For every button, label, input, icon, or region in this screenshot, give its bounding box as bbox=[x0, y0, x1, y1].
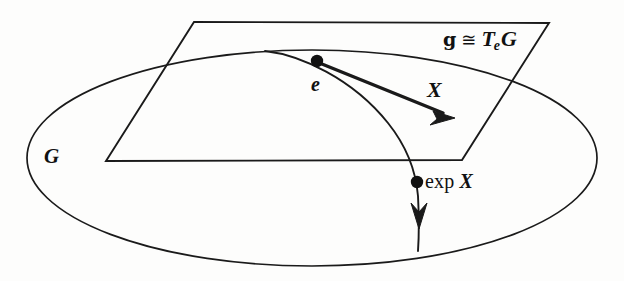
tangent-vector-label: X bbox=[427, 79, 442, 101]
identity-point-marker bbox=[311, 55, 323, 67]
tangent-space-subscript: e bbox=[494, 39, 500, 53]
exp-label-vector: X bbox=[459, 170, 472, 192]
group-label: G bbox=[44, 146, 59, 167]
tangent-vector-shaft bbox=[317, 62, 443, 113]
identity-label: e bbox=[311, 74, 320, 94]
congruence-symbol: ≅ bbox=[461, 31, 476, 49]
lie-group-diagram: G e X expX g ≅ T e G bbox=[0, 0, 624, 281]
exp-label-prefix: exp bbox=[425, 170, 454, 192]
tangent-space-G: G bbox=[501, 28, 517, 50]
exp-point-marker bbox=[411, 176, 423, 188]
diagram-canvas bbox=[0, 0, 624, 281]
lie-algebra-identification-label: g ≅ T e G bbox=[443, 28, 517, 50]
tangent-space-T: T bbox=[481, 28, 494, 50]
exponential-flow-curve bbox=[265, 51, 419, 251]
fraktur-g-symbol: g bbox=[443, 30, 456, 49]
exp-point-label: expX bbox=[425, 171, 473, 191]
